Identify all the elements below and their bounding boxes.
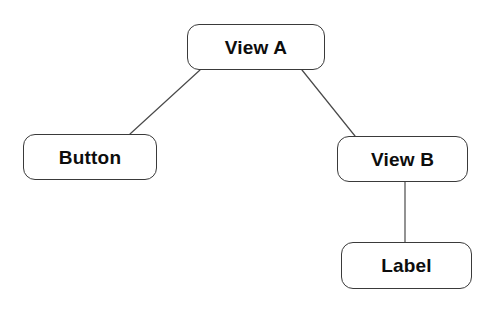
edge-view-a-view-b bbox=[302, 70, 355, 136]
diagram-canvas: View A Button View B Label bbox=[0, 0, 494, 313]
node-label-label: Label bbox=[381, 256, 432, 275]
edge-view-a-button bbox=[130, 70, 200, 134]
node-button-label: Button bbox=[59, 148, 121, 167]
node-view-b[interactable]: View B bbox=[337, 136, 468, 182]
node-view-a[interactable]: View A bbox=[187, 24, 325, 70]
node-button[interactable]: Button bbox=[23, 134, 157, 180]
node-view-b-label: View B bbox=[371, 150, 434, 169]
node-label[interactable]: Label bbox=[341, 242, 472, 289]
node-view-a-label: View A bbox=[225, 38, 287, 57]
